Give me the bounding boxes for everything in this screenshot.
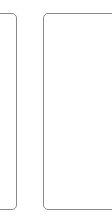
right-panel-card[interactable] (43, 13, 112, 210)
left-panel-card[interactable] (0, 13, 17, 210)
